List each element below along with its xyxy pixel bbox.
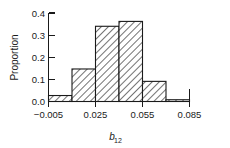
histogram-plot: 0.4 0.3 0.2 0.1 0.0 −0.005 0.025 0.055 0…	[0, 0, 230, 148]
bar-bin-2	[72, 69, 96, 102]
y-tick-label-3: 0.3	[32, 30, 45, 41]
x-tick-label-1: 0.025	[84, 109, 108, 120]
x-tick-label-3: 0.085	[178, 109, 202, 120]
x-axis-title-subscript: 12	[114, 137, 122, 144]
y-axis-title: Proportion	[9, 34, 20, 80]
y-tick-label-1: 0.1	[32, 74, 45, 85]
y-tick-label-2: 0.2	[32, 52, 45, 63]
bar-bin-3	[96, 26, 120, 101]
bar-bin-4	[119, 21, 143, 101]
y-tick-label-4: 0.4	[32, 8, 45, 19]
bar-bin-5	[143, 81, 167, 101]
x-tick-label-2: 0.055	[131, 109, 155, 120]
histogram-figure: 0.4 0.3 0.2 0.1 0.0 −0.005 0.025 0.055 0…	[0, 0, 230, 148]
x-tick-label-0: −0.005	[34, 109, 63, 120]
bar-bin-1	[49, 96, 73, 102]
y-tick-label-0: 0.0	[32, 96, 45, 107]
